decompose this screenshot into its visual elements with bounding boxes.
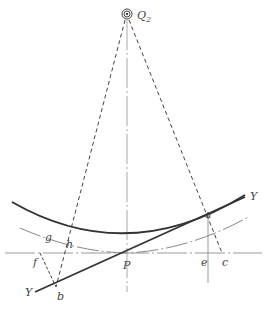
label-b: b xyxy=(57,290,64,303)
label-q-sub: 2 xyxy=(145,15,151,24)
segment-f-b xyxy=(40,253,56,287)
diagram-canvas: Q 2 P a b c e f g h Y Y xyxy=(0,0,266,310)
label-f: f xyxy=(32,256,39,269)
label-g: g xyxy=(45,231,52,244)
label-y-right: Y xyxy=(250,190,259,203)
label-h: h xyxy=(66,238,73,251)
label-c: c xyxy=(222,256,228,269)
label-e: e xyxy=(201,256,208,269)
label-p: P xyxy=(122,259,131,272)
q2-target-icon xyxy=(122,9,132,19)
label-a: a xyxy=(205,208,212,221)
label-q: Q xyxy=(137,9,146,22)
label-y-left: Y xyxy=(25,286,34,299)
